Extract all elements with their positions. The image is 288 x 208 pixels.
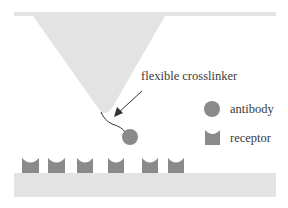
antibody <box>122 129 138 145</box>
legend-antibody-icon <box>204 101 220 117</box>
legend-receptor-label: receptor <box>230 131 272 145</box>
afm-tip <box>33 16 165 113</box>
receptor <box>108 158 124 173</box>
receptor <box>77 158 93 173</box>
legend-receptor-icon <box>205 130 220 145</box>
arrow-head <box>114 107 123 117</box>
receptor <box>48 158 65 173</box>
receptor <box>22 158 39 173</box>
legend-antibody-label: antibody <box>230 102 274 116</box>
receptor <box>168 158 184 173</box>
substrate <box>14 173 276 197</box>
afm-diagram: flexible crosslinker antibody receptor <box>0 0 288 208</box>
cantilever-bar <box>14 12 276 16</box>
crosslinker-label: flexible crosslinker <box>141 69 238 83</box>
crosslinker-line <box>101 112 125 132</box>
crosslinker-arrow <box>118 91 142 113</box>
receptors <box>22 158 184 173</box>
receptor <box>142 158 158 173</box>
